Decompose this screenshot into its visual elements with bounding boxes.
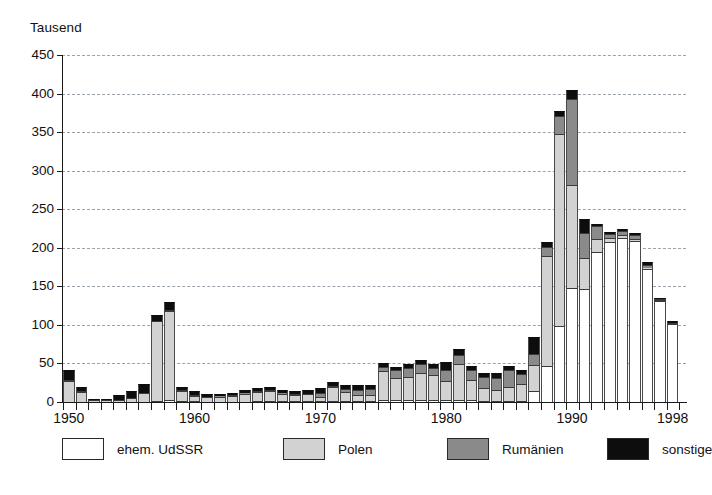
bar-segment xyxy=(503,366,515,370)
bar-segment xyxy=(302,394,314,401)
x-tick-mark xyxy=(63,403,64,410)
x-tick-mark xyxy=(390,403,391,410)
x-tick-mark xyxy=(440,403,441,410)
chart-legend: ehem. UdSSRPolenRumäniensonstige xyxy=(62,438,682,468)
bar-segment xyxy=(138,393,150,402)
bar-segment xyxy=(591,252,603,402)
bar-segment xyxy=(365,389,377,395)
x-tick-mark xyxy=(453,403,454,410)
bar-segment xyxy=(604,232,616,234)
bar-segment xyxy=(528,337,540,354)
bar-1980 xyxy=(440,362,452,402)
bar-segment xyxy=(239,394,251,402)
bar-segment xyxy=(403,364,415,368)
bar-segment xyxy=(315,393,327,398)
bar-segment xyxy=(101,399,113,401)
gridline-450 xyxy=(62,55,686,56)
bar-segment xyxy=(617,235,629,237)
x-tick-mark xyxy=(428,403,429,410)
bar-segment xyxy=(252,392,264,401)
bar-segment xyxy=(566,90,578,99)
bar-segment xyxy=(176,391,188,401)
x-tick-label-1960: 1960 xyxy=(179,410,210,426)
gridline-250 xyxy=(62,209,686,210)
bar-segment xyxy=(629,235,641,239)
bar-1950 xyxy=(63,370,75,402)
bar-segment xyxy=(340,385,352,389)
legend-item-3[interactable]: sonstige xyxy=(607,438,712,460)
x-tick-mark xyxy=(541,403,542,410)
x-tick-mark xyxy=(138,403,139,410)
x-tick-mark xyxy=(654,403,655,410)
bar-segment xyxy=(591,239,603,252)
bar-segment xyxy=(428,375,440,400)
bar-segment xyxy=(315,397,327,401)
bar-segment xyxy=(554,111,566,116)
bar-segment xyxy=(227,393,239,395)
legend-swatch-3 xyxy=(607,438,649,460)
y-tick-label-300: 300 xyxy=(10,164,54,178)
bar-segment xyxy=(617,229,629,231)
bar-segment xyxy=(189,396,201,401)
bar-1974 xyxy=(365,385,377,402)
bar-segment xyxy=(415,373,427,400)
plot-area xyxy=(62,55,686,402)
x-tick-label-1970: 1970 xyxy=(305,410,336,426)
y-tick-label-50: 50 xyxy=(10,356,54,370)
bar-segment xyxy=(604,234,616,238)
bar-segment xyxy=(352,390,364,395)
bar-1967 xyxy=(277,390,289,402)
legend-item-2[interactable]: Rumänien xyxy=(447,438,564,460)
bar-segment xyxy=(491,373,503,378)
x-tick-mark xyxy=(189,403,190,410)
bar-1990 xyxy=(566,90,578,402)
y-tick-label-400: 400 xyxy=(10,87,54,101)
x-tick-mark xyxy=(629,403,630,410)
legend-label-2: Rumänien xyxy=(502,442,564,457)
bar-1951 xyxy=(76,387,88,402)
legend-item-1[interactable]: Polen xyxy=(283,438,373,460)
x-tick-mark xyxy=(201,403,202,410)
bar-1981 xyxy=(453,349,465,402)
bar-1962 xyxy=(214,394,226,402)
x-tick-mark xyxy=(113,403,114,410)
x-tick-mark xyxy=(378,403,379,410)
legend-swatch-2 xyxy=(447,438,489,460)
bar-segment xyxy=(76,392,88,402)
bar-segment xyxy=(352,395,364,401)
x-tick-mark xyxy=(679,403,680,410)
bar-1986 xyxy=(516,370,528,402)
bar-segment xyxy=(176,387,188,390)
bar-segment xyxy=(617,231,629,236)
bar-segment xyxy=(403,368,415,376)
bar-segment xyxy=(390,378,402,400)
bar-segment xyxy=(252,388,264,391)
bar-segment xyxy=(503,387,515,402)
bar-1956 xyxy=(138,384,150,403)
bar-1998 xyxy=(667,321,679,402)
bar-segment xyxy=(617,238,629,402)
bar-segment xyxy=(189,391,201,395)
bar-1979 xyxy=(428,364,440,402)
bar-segment xyxy=(264,387,276,390)
bar-segment xyxy=(579,233,591,258)
bar-1994 xyxy=(617,229,629,403)
bar-segment xyxy=(390,370,402,378)
legend-item-0[interactable]: ehem. UdSSR xyxy=(62,438,203,460)
bar-1982 xyxy=(466,366,478,402)
bar-segment xyxy=(289,395,301,401)
x-tick-mark xyxy=(315,403,316,410)
bar-segment xyxy=(315,388,327,393)
bar-1978 xyxy=(415,360,427,402)
y-tick-label-150: 150 xyxy=(10,279,54,293)
bar-segment xyxy=(239,390,251,392)
bar-segment xyxy=(151,321,163,401)
bar-segment xyxy=(566,288,578,402)
y-axis-unit-label: Tausend xyxy=(30,20,82,35)
bar-segment xyxy=(365,395,377,401)
bar-segment xyxy=(554,326,566,402)
bar-segment xyxy=(440,381,452,400)
bar-segment xyxy=(491,390,503,401)
bar-segment xyxy=(415,364,427,373)
bar-segment xyxy=(327,387,339,401)
